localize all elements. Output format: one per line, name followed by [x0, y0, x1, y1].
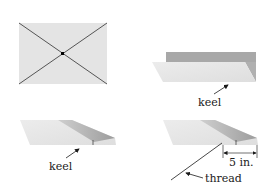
center-point — [61, 52, 64, 55]
keel-arrow — [66, 149, 79, 158]
thread-label-arrow — [186, 173, 203, 178]
panel-flat-sheet — [19, 23, 107, 84]
thread-label: thread — [205, 172, 242, 185]
keel-label: keel — [49, 160, 73, 173]
back-fold — [166, 52, 256, 62]
measurement-label: 5 in. — [229, 156, 254, 169]
paper-airplane-diagram: keel keel 5 in. thread — [0, 0, 279, 185]
panel-thread-attachment: 5 in. thread — [163, 120, 258, 185]
panel-folded-keel: keel — [152, 52, 256, 109]
keel-arrow — [214, 85, 228, 94]
panel-side-view-keel: keel — [20, 120, 116, 173]
front-panel — [152, 62, 256, 82]
keel-label: keel — [198, 96, 222, 109]
